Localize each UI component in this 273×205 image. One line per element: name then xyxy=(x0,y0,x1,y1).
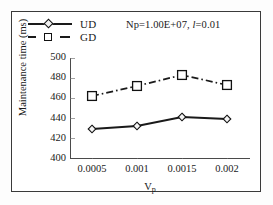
legend-label-gd: GD xyxy=(80,31,96,43)
y-tick-480: 480 xyxy=(36,71,66,83)
data-point-gd-3 xyxy=(178,71,187,80)
chart-figure: UD GD Np=1.00E+07, l=0.01 Maintenance ti… xyxy=(0,0,273,205)
y-tick-440: 440 xyxy=(36,112,66,124)
data-point-gd-2 xyxy=(133,82,142,91)
data-point-gd-1 xyxy=(88,92,97,101)
chart-annotation: Np=1.00E+07, l=0.01 xyxy=(126,19,220,30)
x-tick-3: 0.002 xyxy=(205,163,249,175)
legend-label-ud: UD xyxy=(80,18,96,30)
x-axis-title-base: V xyxy=(144,181,152,192)
x-axis-title-subscript: p xyxy=(152,185,156,194)
y-tick-420: 420 xyxy=(36,132,66,144)
chart-legend: UD GD xyxy=(26,17,118,43)
x-axis-tick-labels: 0.0005 0.001 0.0015 0.002 xyxy=(58,163,264,177)
plot-svg xyxy=(70,58,250,159)
data-point-ud-4 xyxy=(223,115,231,123)
y-axis-tick-labels: 500 480 460 440 420 400 xyxy=(36,51,66,166)
x-tick-0: 0.0005 xyxy=(70,163,114,175)
x-tick-2: 0.0015 xyxy=(160,163,204,175)
annotation-suffix: =0.01 xyxy=(196,19,221,30)
x-tick-1: 0.001 xyxy=(115,163,159,175)
legend-item-ud: UD xyxy=(26,17,118,30)
annotation-prefix: Np=1.00E+07, xyxy=(126,19,193,30)
legend-swatch-solid-diamond-icon xyxy=(26,18,74,30)
data-point-ud-1 xyxy=(88,125,96,133)
y-axis-title: Maintenance time (ms) xyxy=(17,8,28,128)
data-point-ud-2 xyxy=(133,122,141,130)
legend-item-gd: GD xyxy=(26,30,118,43)
series-line-ud xyxy=(92,117,227,129)
legend-swatch-dashed-square-icon xyxy=(26,31,74,43)
series-line-gd xyxy=(92,75,227,96)
data-point-ud-3 xyxy=(178,113,186,121)
x-axis-title: Vp xyxy=(55,181,245,194)
y-tick-460: 460 xyxy=(36,91,66,103)
plot-area xyxy=(70,58,250,159)
data-point-gd-4 xyxy=(223,81,232,90)
y-tick-500: 500 xyxy=(36,51,66,63)
